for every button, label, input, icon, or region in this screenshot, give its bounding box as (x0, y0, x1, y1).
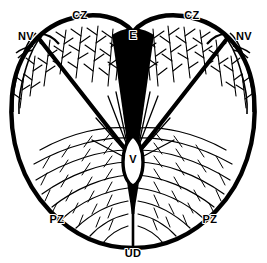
label-underside: UD (125, 247, 142, 259)
label-cz-right: CZ (184, 9, 199, 21)
label-nv-left: NV (18, 30, 34, 42)
label-cz-left: CZ (72, 9, 87, 21)
label-epidermis: E (129, 29, 137, 41)
label-nv-right: NV (236, 30, 252, 42)
label-pz-right: PZ (203, 213, 218, 225)
anatomical-cross-section-diagram: CZ CZ NV NV E V PZ PZ UD (0, 0, 267, 263)
label-vascular: V (129, 153, 137, 165)
figure-root: CZ CZ NV NV E V PZ PZ UD (0, 0, 267, 263)
label-pz-left: PZ (50, 213, 65, 225)
